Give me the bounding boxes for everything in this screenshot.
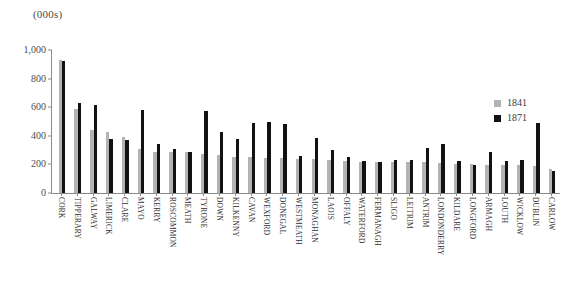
x-axis-label-londonderry: LONDONDERRY (437, 197, 444, 256)
x-axis-label-cell: FERMANAGH (369, 197, 385, 293)
x-axis-label-cell: SLIGO (385, 197, 401, 293)
x-axis-label-cork: CORK (57, 197, 64, 219)
x-axis-label-cell: LIMERICK (100, 197, 116, 293)
x-axis-label-leitrim: LEITRIM (405, 197, 412, 229)
x-axis-label-longford: LONGFORD (468, 197, 475, 239)
legend-swatch-icon (494, 100, 501, 107)
bar-group (434, 50, 450, 193)
x-axis-label-dublin: DUBLIN (531, 197, 538, 226)
bar-group (323, 50, 339, 193)
legend: 18411871 (494, 98, 527, 123)
bar-group (370, 50, 386, 193)
x-axis-label-sligo: SLIGO (389, 197, 396, 220)
bar-1871 (489, 152, 492, 193)
x-axis-label-cell: WATERFORD (353, 197, 369, 293)
x-axis-label-limerick: LIMERICK (104, 197, 111, 235)
x-axis-label-monaghan: MONAGHAN (310, 197, 317, 243)
bar-1871 (109, 139, 112, 193)
bar-1871 (505, 161, 508, 193)
x-axis-label-cell: TIPPERARY (69, 197, 85, 293)
x-axis-label-laois: LAOIS (326, 197, 333, 220)
bar-1871 (410, 160, 413, 193)
x-axis-label-cell: TYRONE (195, 197, 211, 293)
y-axis-tick-label: 200 (31, 159, 52, 169)
bar-group (133, 50, 149, 193)
x-axis-label-cell: ANTRIM (417, 197, 433, 293)
x-axis-label-carlow: CARLOW (547, 197, 554, 231)
bar-1871 (125, 140, 128, 193)
bar-group (181, 50, 197, 193)
x-axis-label-tipperary: TIPPERARY (73, 197, 80, 239)
y-axis-unit-label: (000s) (33, 8, 62, 20)
bar-group (101, 50, 117, 193)
y-axis-tick-label: 600 (31, 102, 52, 112)
x-axis-label-cavan: CAVAN (247, 197, 254, 223)
bar-group (275, 50, 291, 193)
bar-1871 (347, 157, 350, 193)
x-axis-label-cell: CLARE (116, 197, 132, 293)
bar-1871 (299, 156, 302, 193)
x-axis-label-kerry: KERRY (152, 197, 159, 223)
bar-group (307, 50, 323, 193)
bar-group (449, 50, 465, 193)
bar-1871 (457, 161, 460, 193)
x-axis-label-cell: ARMAGH (480, 197, 496, 293)
x-axis-label-clare: CLARE (120, 197, 127, 222)
x-axis-label-westmeath: WESTMEATH (294, 197, 301, 245)
bar-1871 (283, 124, 286, 193)
bar-group (244, 50, 260, 193)
bar-group (149, 50, 165, 193)
bar-group (212, 50, 228, 193)
bar-chart: (000s) 1,0008006004002000 CORKTIPPERARYG… (0, 0, 569, 298)
bar-group (291, 50, 307, 193)
x-axis-label-cell: KILDARE (448, 197, 464, 293)
x-axis-label-wexford: WEXFORD (263, 197, 270, 235)
x-axis-label-wicklow: WICKLOW (516, 197, 523, 235)
bar-1871 (173, 149, 176, 193)
x-axis-label-waterford: WATERFORD (357, 197, 364, 244)
bar-1871 (315, 138, 318, 193)
x-axis-label-cell: WICKLOW (512, 197, 528, 293)
x-axis-label-cell: ROSCOMMON (164, 197, 180, 293)
bar-group (528, 50, 544, 193)
bar-group (54, 50, 70, 193)
bar-group (70, 50, 86, 193)
x-axis-labels: CORKTIPPERARYGALWAYLIMERICKCLAREMAYOKERR… (51, 197, 559, 293)
x-axis-label-roscommon: ROSCOMMON (168, 197, 175, 248)
bar-group (260, 50, 276, 193)
legend-item-1841[interactable]: 1841 (494, 98, 527, 108)
legend-item-1871[interactable]: 1871 (494, 113, 527, 123)
x-axis-label-armagh: ARMAGH (484, 197, 491, 231)
legend-label: 1871 (507, 113, 527, 123)
x-axis-label-cell: CAVAN (243, 197, 259, 293)
x-axis-label-cell: MAYO (132, 197, 148, 293)
x-axis-label-cell: DONEGAL (274, 197, 290, 293)
x-axis-label-cell: GALWAY (85, 197, 101, 293)
bar-1871 (394, 160, 397, 193)
x-axis-label-cell: DOWN (211, 197, 227, 293)
x-axis-label-cell: LOUTH (496, 197, 512, 293)
x-axis-label-kildare: KILDARE (452, 197, 459, 231)
bar-group (228, 50, 244, 193)
x-axis-label-cell: KERRY (148, 197, 164, 293)
y-axis-tick-label: 400 (31, 131, 52, 141)
bar-1871 (252, 123, 255, 193)
x-axis-label-louth: LOUTH (500, 197, 507, 223)
x-axis-label-galway: GALWAY (89, 197, 96, 229)
x-axis-label-kilkenny: KILKENNY (231, 197, 238, 237)
legend-label: 1841 (507, 98, 527, 108)
x-axis-label-cell: LONDONDERRY (433, 197, 449, 293)
x-axis-label-donegal: DONEGAL (278, 197, 285, 234)
bar-1871 (441, 144, 444, 193)
bar-group (165, 50, 181, 193)
bar-group (386, 50, 402, 193)
bar-1871 (520, 160, 523, 193)
x-axis-label-fermanagh: FERMANAGH (373, 197, 380, 246)
x-axis-label-antrim: ANTRIM (421, 197, 428, 228)
bar-group (465, 50, 481, 193)
x-axis-label-cell: DUBLIN (527, 197, 543, 293)
bar-group (117, 50, 133, 193)
x-axis-label-cell: MEATH (180, 197, 196, 293)
bar-1871 (426, 148, 429, 193)
bar-group (196, 50, 212, 193)
